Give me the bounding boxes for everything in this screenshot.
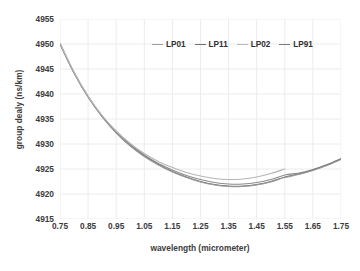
legend-swatch-lp01 — [152, 44, 163, 45]
y-axis-tick-label: 4925 — [6, 165, 54, 173]
legend-label: LP91 — [293, 40, 313, 49]
x-axis-tick-labels: 0.750.850.951.051.151.251.351.451.551.65… — [0, 222, 360, 236]
legend-label: LP11 — [209, 40, 228, 49]
y-axis-tick-label: 4920 — [6, 190, 54, 198]
chart-legend: LP01LP11LP02LP91 — [152, 40, 313, 49]
legend-swatch-lp11 — [195, 44, 206, 45]
y-axis-tick-label: 4955 — [6, 15, 54, 23]
y-axis-tick-label: 4930 — [6, 140, 54, 148]
legend-item-lp91[interactable]: LP91 — [279, 40, 313, 49]
legend-item-lp02[interactable]: LP02 — [237, 40, 271, 49]
y-axis-tick-label: 4935 — [6, 115, 54, 123]
legend-label: LP01 — [166, 40, 186, 49]
chart-figure: group dealy (ns/km) wavelength (micromet… — [0, 0, 360, 271]
x-axis-tick-label: 1.75 — [324, 222, 358, 231]
y-axis-tick-label: 4940 — [6, 90, 54, 98]
plot-area — [60, 19, 341, 219]
legend-item-lp11[interactable]: LP11 — [195, 40, 228, 49]
legend-swatch-lp91 — [279, 44, 290, 45]
legend-item-lp01[interactable]: LP01 — [152, 40, 186, 49]
legend-swatch-lp02 — [237, 44, 248, 45]
plot-svg — [60, 19, 341, 219]
legend-label: LP02 — [251, 40, 271, 49]
y-axis-tick-label: 4950 — [6, 40, 54, 48]
y-axis-tick-label: 4945 — [6, 65, 54, 73]
x-axis-title: wavelength (micrometer) — [55, 243, 345, 253]
